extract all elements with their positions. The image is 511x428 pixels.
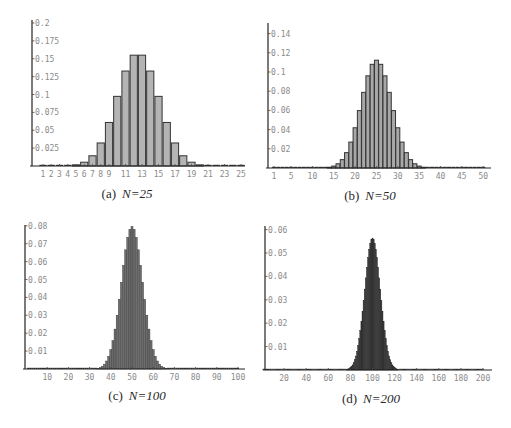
bar-series bbox=[27, 227, 239, 369]
figure-canvas: 0.0250.050.0750.10.1250.150.1750.2123456… bbox=[0, 0, 511, 428]
y-tick-label: 0.14 bbox=[271, 30, 290, 39]
y-tick-label: 0.04 bbox=[271, 126, 290, 135]
y-tick-label: 0.06 bbox=[271, 106, 290, 115]
bar bbox=[155, 96, 162, 166]
x-tick-label: 11 bbox=[121, 170, 131, 179]
x-tick-label: 40 bbox=[106, 373, 116, 382]
x-tick-label: 21 bbox=[203, 170, 213, 179]
bar bbox=[114, 96, 121, 166]
chart-panel-d: 0.010.020.030.040.050.062040608010012014… bbox=[263, 226, 492, 383]
x-tick-label: 40 bbox=[301, 374, 311, 383]
x-tick-label: 30 bbox=[85, 373, 95, 382]
chart-panel-c: 0.010.020.030.040.050.060.070.0810203040… bbox=[23, 222, 245, 382]
y-tick-label: 0.05 bbox=[35, 126, 54, 135]
bar bbox=[349, 142, 353, 168]
bar bbox=[340, 160, 344, 168]
bar bbox=[387, 92, 391, 168]
y-tick-label: 0.08 bbox=[28, 222, 47, 231]
y-tick-label: 0.03 bbox=[268, 296, 287, 305]
bar bbox=[357, 111, 361, 168]
bar bbox=[116, 315, 118, 369]
caption-d: (d)N=200 bbox=[342, 391, 401, 406]
bar bbox=[114, 329, 116, 369]
x-tick-label: 6 bbox=[82, 170, 87, 179]
x-tick-label: 50 bbox=[127, 373, 137, 382]
x-tick-label: 140 bbox=[409, 374, 424, 383]
bar bbox=[159, 364, 161, 369]
y-tick-label: 0.03 bbox=[28, 311, 47, 320]
x-tick-label: 15 bbox=[154, 170, 164, 179]
bar bbox=[129, 229, 131, 369]
x-tick-label: 5 bbox=[289, 172, 294, 181]
x-tick-label: 40 bbox=[436, 172, 446, 181]
bar bbox=[122, 71, 129, 166]
y-tick-label: 0.04 bbox=[268, 272, 287, 281]
y-tick-label: 0.04 bbox=[28, 293, 47, 302]
x-tick-label: 10 bbox=[308, 172, 318, 181]
x-tick-label: 13 bbox=[137, 170, 147, 179]
bar bbox=[130, 55, 137, 166]
bar bbox=[404, 153, 408, 168]
bar bbox=[105, 122, 112, 166]
x-tick-label: 50 bbox=[478, 172, 488, 181]
y-tick-label: 0.02 bbox=[268, 319, 287, 328]
bar bbox=[148, 329, 150, 369]
y-tick-label: 0.07 bbox=[28, 240, 47, 249]
bar bbox=[127, 237, 129, 369]
bar bbox=[131, 227, 133, 369]
x-tick-label: 4 bbox=[65, 170, 70, 179]
x-tick-label: 20 bbox=[64, 373, 74, 382]
bar bbox=[97, 143, 104, 166]
bar bbox=[163, 122, 170, 166]
x-tick-label: 7 bbox=[90, 170, 95, 179]
x-tick-label: 45 bbox=[457, 172, 467, 181]
x-tick-label: 19 bbox=[187, 170, 197, 179]
bar bbox=[413, 164, 417, 168]
x-tick-label: 23 bbox=[220, 170, 230, 179]
bar bbox=[108, 356, 110, 369]
x-tick-label: 60 bbox=[323, 374, 333, 383]
caption-b: (b)N=50 bbox=[344, 188, 396, 203]
x-tick-label: 9 bbox=[107, 170, 112, 179]
x-tick-label: 80 bbox=[346, 374, 356, 383]
bar bbox=[139, 265, 141, 369]
bar bbox=[144, 299, 146, 369]
x-tick-label: 20 bbox=[350, 172, 360, 181]
y-tick-label: 0.2 bbox=[35, 19, 50, 28]
x-tick-label: 120 bbox=[387, 374, 402, 383]
x-tick-label: 35 bbox=[414, 172, 424, 181]
y-tick-label: 0.12 bbox=[271, 49, 290, 58]
y-tick-label: 0.075 bbox=[35, 108, 59, 117]
bar bbox=[137, 250, 139, 369]
bar bbox=[112, 341, 114, 369]
x-tick-label: 200 bbox=[476, 374, 491, 383]
y-tick-label: 0.1 bbox=[35, 91, 50, 100]
bar bbox=[345, 153, 349, 168]
chart-panel-b: 0.020.040.060.080.10.120.141510152025303… bbox=[266, 23, 491, 181]
bar bbox=[142, 282, 144, 369]
bar bbox=[120, 282, 122, 369]
bar bbox=[370, 64, 374, 168]
x-tick-label: 20 bbox=[279, 374, 289, 383]
y-tick-label: 0.05 bbox=[268, 249, 287, 258]
bar bbox=[392, 111, 396, 168]
x-tick-label: 1 bbox=[272, 172, 277, 181]
x-tick-label: 17 bbox=[170, 170, 180, 179]
y-tick-label: 0.01 bbox=[268, 343, 287, 352]
bar bbox=[118, 299, 120, 369]
bar bbox=[396, 128, 400, 168]
bar-series bbox=[39, 55, 244, 166]
bar bbox=[362, 92, 366, 168]
bar bbox=[147, 71, 154, 166]
x-tick-label: 25 bbox=[372, 172, 382, 181]
bar bbox=[154, 356, 156, 369]
bar bbox=[138, 55, 145, 166]
bar bbox=[133, 229, 135, 369]
y-tick-label: 0.02 bbox=[271, 145, 290, 154]
x-tick-label: 180 bbox=[454, 374, 469, 383]
y-tick-label: 0.05 bbox=[28, 276, 47, 285]
bar bbox=[336, 164, 340, 168]
x-tick-label: 1 bbox=[41, 170, 46, 179]
chart-panel-a: 0.0250.050.0750.10.1250.150.1750.2123456… bbox=[30, 19, 246, 179]
bar bbox=[366, 76, 370, 168]
